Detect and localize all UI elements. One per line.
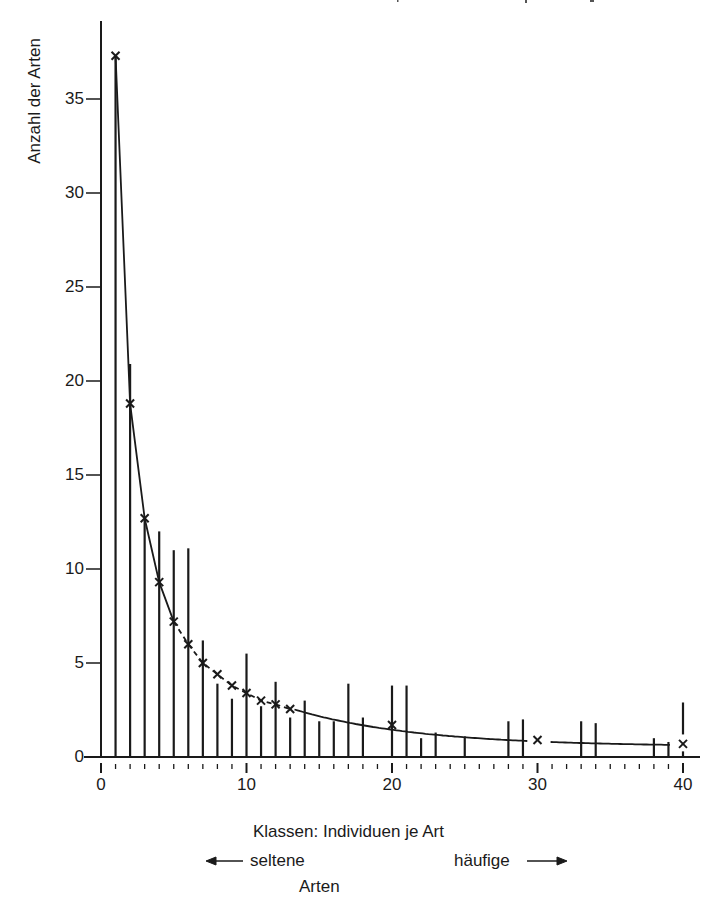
common-species-label: häufige bbox=[454, 851, 510, 871]
y-tick-label: 5 bbox=[40, 653, 84, 673]
y-tick-label: 15 bbox=[40, 465, 84, 485]
x-marker-icon bbox=[679, 740, 687, 748]
x-marker-icon bbox=[534, 736, 542, 744]
fitted-curve-dashed bbox=[174, 622, 290, 709]
y-tick-label: 20 bbox=[40, 371, 84, 391]
rare-species-label: seltene bbox=[250, 851, 305, 871]
cropped-header-fragments bbox=[397, 0, 594, 3]
bars bbox=[116, 56, 683, 757]
x-marker-icon bbox=[213, 670, 221, 678]
y-tick-label: 10 bbox=[40, 559, 84, 579]
axes bbox=[84, 21, 700, 773]
x-tick-label: 40 bbox=[663, 775, 703, 795]
x-axis-caption: Klassen: Individuen je Art bbox=[253, 822, 444, 842]
left-arrowhead-icon bbox=[206, 857, 216, 865]
x-axis-bottom-label: Arten bbox=[299, 877, 340, 897]
x-marker-icon bbox=[228, 682, 236, 690]
fitted-markers bbox=[112, 52, 687, 748]
right-arrowhead-icon bbox=[557, 857, 567, 865]
fitted-curve-tail bbox=[295, 710, 670, 745]
x-tick-label: 30 bbox=[518, 775, 558, 795]
y-tick-label: 35 bbox=[40, 89, 84, 109]
x-tick-label: 20 bbox=[372, 775, 412, 795]
y-tick-label: 25 bbox=[40, 277, 84, 297]
y-tick-label: 30 bbox=[40, 183, 84, 203]
fitted-curve bbox=[116, 56, 670, 745]
x-tick-label: 10 bbox=[227, 775, 267, 795]
chart-canvas bbox=[0, 0, 717, 905]
x-tick-label: 0 bbox=[81, 775, 121, 795]
y-tick-label: 0 bbox=[40, 747, 84, 767]
x-marker-icon bbox=[257, 697, 265, 705]
